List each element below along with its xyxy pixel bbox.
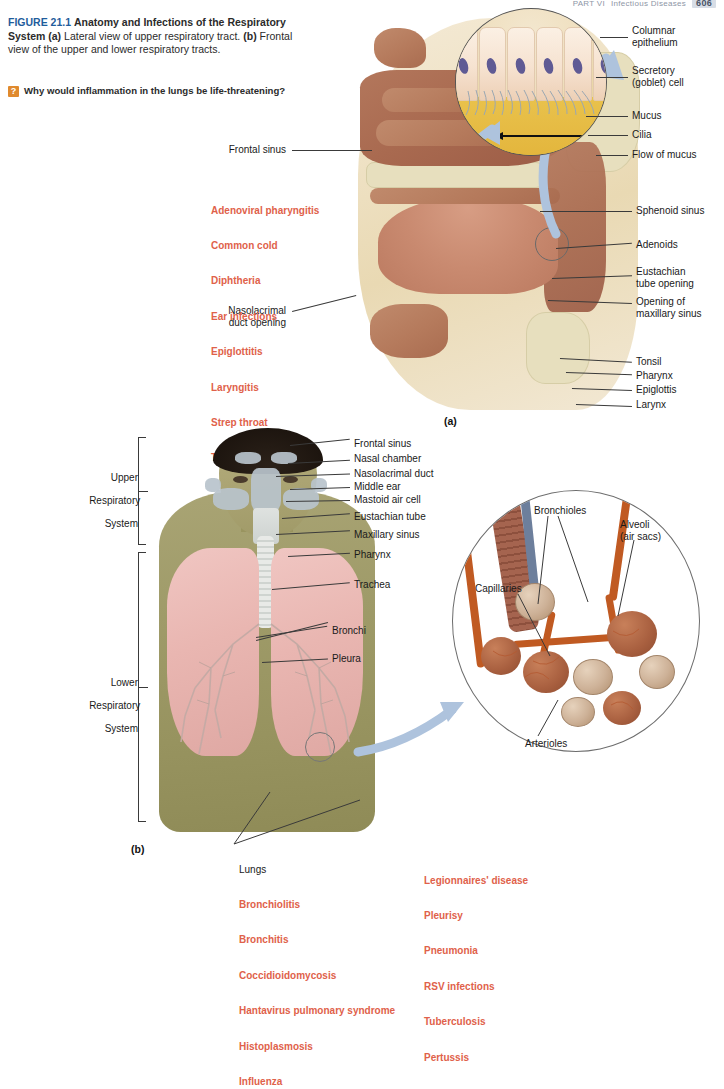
inset-blue-arrow-icon <box>456 105 516 156</box>
disease-item: Common cold <box>211 240 319 252</box>
disease-item: Diphtheria <box>211 275 319 287</box>
running-head-section: Infectious Diseases <box>611 0 686 8</box>
bracket-line-3: System <box>105 723 138 734</box>
disease-item: Pneumonia <box>424 945 528 957</box>
figure-number: FIGURE 21.1 <box>8 16 71 28</box>
label-secretory-goblet-cell: Secretory (goblet) cell <box>632 65 684 88</box>
label-pleura: Pleura <box>332 653 361 665</box>
panel-a-caption-label: (a) <box>48 30 61 42</box>
cell-nucleus <box>457 57 469 74</box>
leader-capillaries <box>516 594 564 660</box>
disease-item: RSV infections <box>424 981 528 993</box>
lower-respiratory-disease-list-col2: Legionnaires' disease Pleurisy Pneumonia… <box>424 851 528 1087</box>
label-frontal-sinus-a: Frontal sinus <box>200 144 286 156</box>
bracket-line-3: System <box>105 518 138 529</box>
cell-nucleus <box>485 57 497 74</box>
label-upper-respiratory-system: Upper Respiratory System <box>78 460 138 541</box>
bracket-tick <box>139 491 148 492</box>
leader-flow-of-mucus <box>596 155 628 156</box>
label-tonsil: Tonsil <box>636 356 662 368</box>
disease-item: Bronchitis <box>239 934 395 946</box>
disease-item: Epiglottitis <box>211 346 319 358</box>
disease-item: Pertussis <box>424 1052 528 1064</box>
label-mucus: Mucus <box>632 110 661 122</box>
panel-a-caption-text: Lateral view of upper respiratory tract. <box>64 30 240 42</box>
cell-nucleus <box>571 57 583 74</box>
label-epiglottis: Epiglottis <box>636 384 677 396</box>
label-flow-of-mucus: Flow of mucus <box>632 149 696 161</box>
label-middle-ear: Middle ear <box>354 481 401 493</box>
bracket-tick <box>139 687 148 688</box>
label-trachea: Trachea <box>354 579 390 591</box>
leader-columnar-epithelium <box>600 37 628 38</box>
label-sphenoid-sinus: Sphenoid sinus <box>636 205 704 217</box>
label-alveoli-air-sacs: Alveoli (air sacs) <box>620 519 661 542</box>
lungs-heading: Lungs <box>239 864 395 876</box>
leader-goblet-cell <box>596 77 628 78</box>
bracket-line-2: Respiratory <box>89 495 140 506</box>
leader-lungs <box>214 790 364 846</box>
disease-item: Pleurisy <box>424 910 528 922</box>
disease-item: Strep throat <box>211 417 319 429</box>
label-lower-respiratory-system: Lower Respiratory System <box>78 665 138 746</box>
label-nasolacrimal-duct: Nasolacrimal duct <box>354 468 433 480</box>
disease-item: Ear infections <box>211 311 319 323</box>
disease-item: Histoplasmosis <box>239 1041 395 1053</box>
question-badge-icon: ? <box>8 86 19 97</box>
cell-nucleus <box>514 57 526 74</box>
leader-sphenoid-sinus <box>540 211 632 212</box>
label-bronchi: Bronchi <box>332 625 366 637</box>
panel-b-id: (b) <box>131 843 144 855</box>
label-larynx: Larynx <box>636 399 666 411</box>
label-eustachian-tube-b: Eustachian tube <box>354 511 426 523</box>
leader-frontal-sinus-a <box>292 150 372 151</box>
lower-respiratory-disease-list-col1: Lungs Bronchiolitis Bronchitis Coccidioi… <box>239 840 395 1089</box>
disease-item: Laryngitis <box>211 382 319 394</box>
running-head: PART VI Infectious Diseases 606 <box>573 0 716 8</box>
disease-item: Influenza <box>239 1076 395 1088</box>
leader-mucus <box>586 116 628 117</box>
upper-respiratory-bracket <box>138 437 139 545</box>
panel-a-id: (a) <box>444 415 457 427</box>
bracket-line-1: Upper <box>111 472 138 483</box>
caption-question-row: ? Why would inflammation in the lungs be… <box>8 85 308 97</box>
label-nasal-chamber: Nasal chamber <box>354 453 421 465</box>
disease-item: Bronchiolitis <box>239 899 395 911</box>
label-bronchioles: Bronchioles <box>534 505 586 517</box>
leader-arterioles <box>530 700 578 740</box>
page-number: 606 <box>692 0 716 8</box>
cell-nucleus <box>542 57 554 74</box>
label-pharynx-b: Pharynx <box>354 549 391 561</box>
caption-question-text: Why would inflammation in the lungs be l… <box>24 85 285 97</box>
label-opening-of-maxillary-sinus: Opening of maxillary sinus <box>636 296 702 319</box>
label-adenoids: Adenoids <box>636 239 678 251</box>
alveoli-detail-circle <box>305 732 335 762</box>
cell-nucleus <box>599 57 607 74</box>
label-pharynx-a: Pharynx <box>636 370 673 382</box>
ciliated-epithelium-inset <box>455 8 607 156</box>
label-frontal-sinus-b: Frontal sinus <box>354 438 411 450</box>
bracket-line-1: Lower <box>111 677 138 688</box>
running-head-part: PART VI <box>573 0 605 8</box>
leader-cilia <box>588 135 628 136</box>
figure-caption: FIGURE 21.1 Anatomy and Infections of th… <box>8 16 298 57</box>
frontal-sinus-cavity <box>374 28 426 68</box>
bracket-line-2: Respiratory <box>89 700 140 711</box>
disease-item: Tuberculosis <box>424 1016 528 1028</box>
mandible-region <box>370 304 448 358</box>
lower-respiratory-bracket <box>138 552 139 822</box>
leader-alveoli <box>612 540 652 618</box>
label-columnar-epithelium: Columnar epithelium <box>632 25 678 48</box>
label-cilia: Cilia <box>632 129 651 141</box>
label-capillaries: Capillaries <box>475 583 522 595</box>
alveoli-magnify-arrow-icon <box>352 700 472 760</box>
label-mastoid-air-cell: Mastoid air cell <box>354 494 421 506</box>
label-maxillary-sinus-b: Maxillary sinus <box>354 529 420 541</box>
label-eustachian-tube-opening: Eustachian tube opening <box>636 266 694 289</box>
disease-item: Legionnaires' disease <box>424 875 528 887</box>
disease-item: Hantavirus pulmonary syndrome <box>239 1005 395 1017</box>
panel-b-caption-label: (b) <box>243 30 256 42</box>
disease-item: Coccidioidomycosis <box>239 970 395 982</box>
disease-item: Adenoviral pharyngitis <box>211 205 319 217</box>
